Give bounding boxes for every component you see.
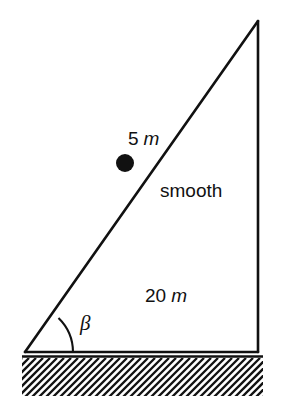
incline-length-value: 20 — [145, 285, 166, 306]
slope-distance-value: 5 — [128, 128, 139, 149]
ground-hatch-lines — [0, 358, 281, 398]
inclined-plane-diagram: 5m smooth 20m β — [0, 0, 281, 419]
triangle-wedge — [25, 21, 258, 352]
slope-distance-unit: m — [144, 128, 160, 149]
incline-length-label: 20m — [145, 285, 187, 306]
particle-ball — [116, 154, 134, 172]
incline-hypotenuse — [25, 21, 258, 352]
incline-length-unit: m — [171, 285, 187, 306]
ground-hatching — [0, 357, 281, 399]
angle-beta-label: β — [79, 311, 91, 335]
angle-arc — [59, 318, 74, 352]
smooth-surface-label: smooth — [160, 180, 222, 201]
diagram-canvas: 5m smooth 20m β — [0, 0, 281, 419]
slope-distance-label: 5m — [128, 128, 159, 149]
